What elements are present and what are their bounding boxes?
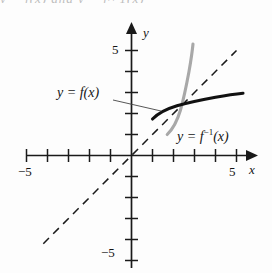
inverse-function-figure: y = f(x) and y = f^-1(x) bbox=[0, 0, 272, 273]
y-axis bbox=[126, 22, 137, 268]
identity-line-y-equals-x bbox=[43, 51, 236, 244]
x-axis-arrowhead bbox=[246, 150, 258, 161]
x-axis bbox=[26, 150, 258, 161]
curve-label-f-inverse-exponent: −1 bbox=[204, 127, 214, 137]
y-axis-arrowhead bbox=[126, 22, 137, 34]
y-tick-label-5: 5 bbox=[112, 43, 119, 56]
x-tick-label-5: 5 bbox=[229, 165, 236, 178]
curve-f-inverse bbox=[167, 44, 193, 135]
f-label-leader-line bbox=[113, 100, 161, 111]
y-axis-label: y bbox=[143, 26, 149, 39]
curve-label-f-inverse-suffix: (x) bbox=[213, 129, 229, 144]
curve-label-f-inverse: y = f−1(x) bbox=[177, 130, 229, 144]
curve-label-f: y = f(x) bbox=[57, 86, 99, 100]
curve-f bbox=[153, 93, 244, 119]
x-axis-label: x bbox=[249, 163, 255, 176]
x-tick-label-minus-5: −5 bbox=[18, 165, 32, 178]
y-tick-label-minus-5: −5 bbox=[101, 246, 115, 259]
coordinate-plot bbox=[0, 0, 272, 273]
curve-label-f-inverse-prefix: y = f bbox=[177, 129, 204, 144]
